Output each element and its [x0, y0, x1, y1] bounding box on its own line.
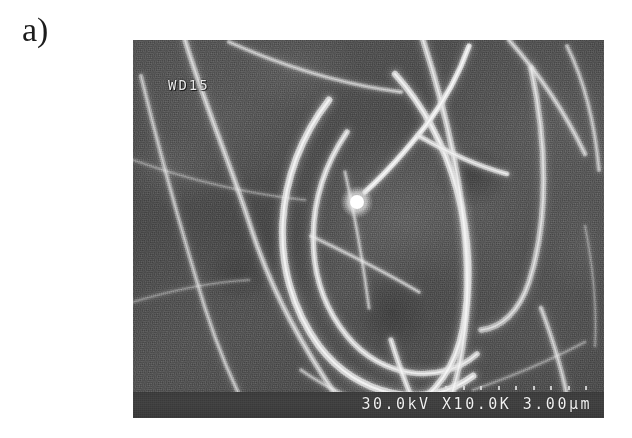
instrument-caption-text: 30.0kV X10.0K 3.00μm: [361, 395, 592, 413]
instrument-caption-bar: 30.0kV X10.0K 3.00μm: [133, 392, 604, 418]
fibre-faint-bg-2-halo: [133, 280, 249, 302]
scale-tick: [498, 386, 500, 390]
scale-tick: [480, 386, 482, 390]
sem-micrograph-image: WD15 30.0kV X10.0K 3.00μm: [133, 40, 604, 418]
scale-tick: [568, 386, 570, 390]
catalyst-particle: [350, 195, 364, 209]
scale-tick: [585, 386, 587, 390]
scale-tick: [550, 386, 552, 390]
scale-tick: [445, 386, 447, 390]
catalyst-tip-group: [340, 185, 374, 219]
scale-tick: [463, 386, 465, 390]
working-distance-overlay: WD15: [168, 77, 210, 93]
fibre-cross-diagonal-halo: [229, 42, 401, 92]
scale-tick: [533, 386, 535, 390]
fibre-faint-bg-1-halo: [133, 160, 305, 200]
scale-bar-ticks: [445, 386, 585, 391]
nanofibre-network: [133, 40, 604, 418]
fibre-right-hook-halo: [481, 68, 544, 330]
sem-figure-panel: a): [0, 0, 632, 438]
nanofibre-stroke-group: [133, 40, 599, 418]
panel-label: a): [22, 10, 48, 50]
fibre-left-edge-long-halo: [141, 76, 251, 418]
scale-tick: [515, 386, 517, 390]
